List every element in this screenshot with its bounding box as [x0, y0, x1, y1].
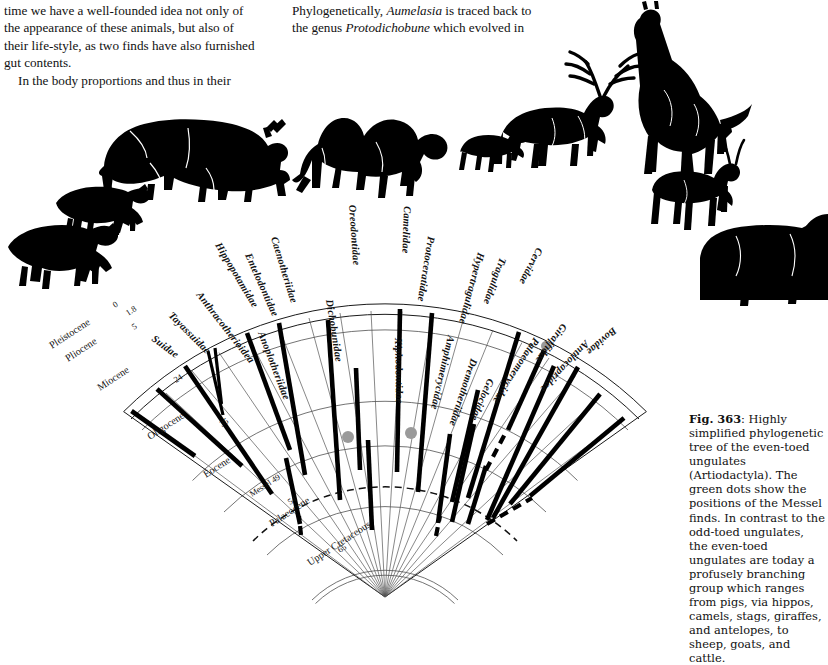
label-amphimerycidae: Amphimerycidae	[429, 334, 457, 411]
giraffe-silhouette	[634, 1, 752, 186]
fan-diagram: Suidae Tayassuidae Anthracotherioidea Hi…	[47, 204, 646, 603]
messel-find-dot	[405, 427, 417, 439]
lineage-protoceratidae	[418, 313, 432, 492]
gazelle-silhouette	[651, 140, 744, 230]
age-5: 5	[130, 321, 139, 332]
label-cervidae: Cervidae	[517, 246, 545, 287]
lineage-xiphodontidae	[368, 440, 372, 530]
lineage-dremotheriidae	[452, 424, 474, 522]
lineage-amphimerycidae	[438, 434, 450, 523]
hippopotamus-silhouette	[99, 119, 290, 202]
lineage-cervidae-dashed	[486, 432, 506, 470]
arc-cretaceous-top	[316, 575, 455, 603]
label-caenotheriidae: Caenotheriidae	[269, 235, 300, 304]
camel-silhouette	[292, 118, 447, 198]
age-0: 0	[111, 299, 120, 310]
label-suidae: Suidae	[150, 333, 181, 360]
label-xiphodontidae: Xiphodontidae	[393, 337, 405, 404]
label-eocene: Eocene	[201, 454, 233, 480]
animal-silhouettes-group	[8, 1, 828, 306]
label-messel-horizon: Messel 49	[248, 473, 282, 499]
label-tragulidae: Tragulidae	[481, 256, 508, 306]
messel-find-dot	[342, 431, 354, 443]
lineage-oreodontidae	[356, 368, 360, 470]
label-oreodontidae: Oreodontidae	[347, 204, 362, 266]
age-1-8: 1.8	[124, 303, 138, 317]
warthog-silhouette	[8, 223, 118, 289]
cattle-silhouette	[700, 214, 828, 306]
label-miocene: Miocene	[95, 364, 131, 393]
label-protoceratidae: Protoceratidae	[416, 236, 437, 303]
label-camelidae: Camelidae	[400, 206, 413, 254]
lineage-anoplotheriidae-dashed	[299, 516, 301, 535]
label-bovidae: Bovidae	[584, 325, 619, 358]
